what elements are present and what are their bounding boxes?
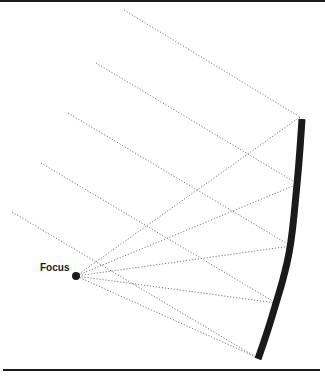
concave-mirror-diagram: Focus xyxy=(0,0,325,382)
focus-label: Focus xyxy=(40,262,70,273)
reflected-ray-3 xyxy=(76,246,291,276)
reflected-rays xyxy=(76,117,300,357)
incident-ray-2 xyxy=(96,63,298,184)
incident-ray-1 xyxy=(124,10,300,117)
reflected-ray-1 xyxy=(76,117,300,276)
incident-ray-5 xyxy=(12,212,256,357)
incident-rays xyxy=(12,10,300,357)
incident-ray-4 xyxy=(41,163,276,303)
incident-ray-3 xyxy=(68,113,291,246)
focus-point xyxy=(72,272,80,280)
reflected-ray-5 xyxy=(76,276,256,357)
reflected-ray-4 xyxy=(76,276,276,303)
